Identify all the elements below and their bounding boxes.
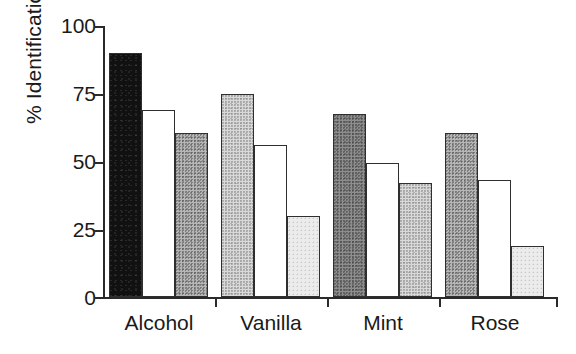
x-tick-mark-2 <box>327 299 329 307</box>
x-tick-mark-4 <box>556 299 558 307</box>
bar-alcohol-1 <box>109 53 142 297</box>
x-tick-mark-3 <box>439 299 441 307</box>
y-tick-mark-100 <box>94 26 103 28</box>
y-tick-label-0: 0 <box>34 287 96 308</box>
y-tick-mark-75 <box>94 94 103 96</box>
x-tick-mark-1 <box>215 299 217 307</box>
x-axis-line <box>103 297 558 299</box>
bar-chart-figure: % Identification 100 75 50 25 0 Alcohol … <box>0 0 576 354</box>
y-tick-mark-0 <box>94 297 103 299</box>
bar-mint-2 <box>366 163 399 297</box>
bars-layer <box>103 26 558 297</box>
bar-rose-2 <box>478 180 511 297</box>
bar-rose-3 <box>511 246 544 297</box>
y-tick-label-100: 100 <box>34 15 96 36</box>
bar-mint-3 <box>399 183 432 297</box>
bar-alcohol-2 <box>142 110 175 297</box>
x-category-label-rose: Rose <box>439 312 551 333</box>
x-category-label-alcohol: Alcohol <box>103 312 215 333</box>
y-tick-mark-50 <box>94 162 103 164</box>
bar-vanilla-1 <box>221 94 254 297</box>
bar-vanilla-2 <box>254 145 287 297</box>
y-axis-tick-labels: 100 75 50 25 0 <box>30 0 96 354</box>
bar-mint-1 <box>333 114 366 297</box>
y-tick-label-25: 25 <box>34 219 96 240</box>
plot-area <box>103 26 558 298</box>
x-category-label-vanilla: Vanilla <box>215 312 327 333</box>
bar-vanilla-3 <box>287 216 320 297</box>
y-tick-mark-25 <box>94 230 103 232</box>
y-tick-label-50: 50 <box>34 151 96 172</box>
bar-alcohol-3 <box>175 133 208 297</box>
bar-rose-1 <box>445 133 478 297</box>
x-category-label-mint: Mint <box>327 312 439 333</box>
y-tick-label-75: 75 <box>34 83 96 104</box>
